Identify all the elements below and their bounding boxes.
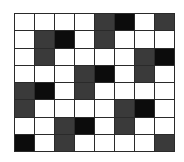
grid-cell-r0-c6 [135, 14, 154, 30]
grid-cell-r0-c2 [55, 14, 74, 30]
pattern-grid [14, 13, 175, 152]
grid-cell-r3-c4 [95, 66, 114, 82]
grid-cell-r5-c4 [95, 100, 114, 116]
grid-cell-r5-c5 [115, 100, 134, 116]
grid-cell-r0-c5 [115, 14, 134, 30]
grid-cell-r5-c3 [75, 100, 94, 116]
grid-cell-r7-c0 [15, 135, 34, 151]
grid-cell-r4-c5 [115, 83, 134, 99]
grid-cell-r6-c4 [95, 118, 114, 134]
grid-cell-r2-c3 [75, 49, 94, 65]
grid-cell-r7-c7 [155, 135, 174, 151]
grid-cell-r5-c0 [15, 100, 34, 116]
grid-cell-r3-c6 [135, 66, 154, 82]
grid-cell-r6-c2 [55, 118, 74, 134]
grid-cell-r6-c5 [115, 118, 134, 134]
grid-cell-r6-c7 [155, 118, 174, 134]
grid-cell-r2-c2 [55, 49, 74, 65]
grid-cell-r0-c7 [155, 14, 174, 30]
grid-cell-r1-c3 [75, 31, 94, 47]
grid-cell-r7-c3 [75, 135, 94, 151]
grid-cell-r0-c0 [15, 14, 34, 30]
grid-cell-r7-c4 [95, 135, 114, 151]
grid-cell-r1-c7 [155, 31, 174, 47]
grid-cell-r4-c4 [95, 83, 114, 99]
grid-cell-r3-c7 [155, 66, 174, 82]
grid-cell-r3-c3 [75, 66, 94, 82]
grid-cell-r1-c0 [15, 31, 34, 47]
grid-cell-r0-c1 [35, 14, 54, 30]
grid-cell-r1-c1 [35, 31, 54, 47]
grid-cell-r0-c3 [75, 14, 94, 30]
grid-cell-r3-c0 [15, 66, 34, 82]
grid-cell-r4-c3 [75, 83, 94, 99]
grid-cell-r3-c2 [55, 66, 74, 82]
grid-cell-r2-c0 [15, 49, 34, 65]
grid-cell-r4-c2 [55, 83, 74, 99]
grid-cell-r5-c2 [55, 100, 74, 116]
grid-cell-r3-c1 [35, 66, 54, 82]
grid-cell-r5-c6 [135, 100, 154, 116]
grid-cell-r6-c6 [135, 118, 154, 134]
grid-cell-r6-c0 [15, 118, 34, 134]
grid-cell-r4-c1 [35, 83, 54, 99]
grid-cell-r6-c1 [35, 118, 54, 134]
grid-cell-r2-c1 [35, 49, 54, 65]
grid-cell-r7-c2 [55, 135, 74, 151]
grid-cell-r1-c5 [115, 31, 134, 47]
grid-cell-r6-c3 [75, 118, 94, 134]
grid-cell-r2-c6 [135, 49, 154, 65]
grid-cell-r0-c4 [95, 14, 114, 30]
grid-cell-r1-c6 [135, 31, 154, 47]
grid-cell-r2-c5 [115, 49, 134, 65]
grid-cell-r3-c5 [115, 66, 134, 82]
grid-cell-r5-c7 [155, 100, 174, 116]
grid-cell-r2-c4 [95, 49, 114, 65]
grid-cell-r7-c6 [135, 135, 154, 151]
grid-cell-r1-c4 [95, 31, 114, 47]
grid-cell-r1-c2 [55, 31, 74, 47]
grid-cell-r2-c7 [155, 49, 174, 65]
grid-cell-r4-c0 [15, 83, 34, 99]
grid-cell-r4-c7 [155, 83, 174, 99]
grid-cell-r4-c6 [135, 83, 154, 99]
grid-cell-r7-c1 [35, 135, 54, 151]
grid-cell-r5-c1 [35, 100, 54, 116]
grid-cell-r7-c5 [115, 135, 134, 151]
